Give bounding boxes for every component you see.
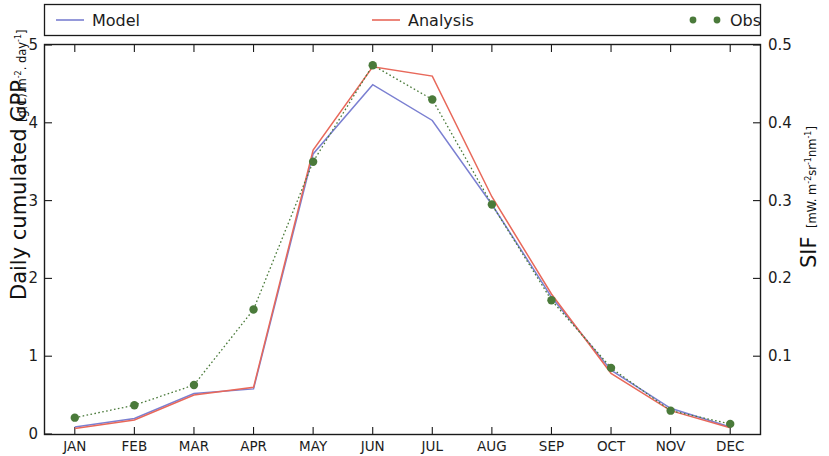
x-tick-label-feb: FEB — [122, 438, 148, 454]
obs-marker-mar — [190, 381, 198, 389]
left-tick-label: 1 — [28, 347, 38, 365]
right-tick-label: 0.1 — [768, 347, 792, 365]
x-tick-label-aug: AUG — [477, 438, 507, 454]
legend-label-obs: Obs — [730, 11, 761, 30]
right-axis-title-text: SIF — [797, 236, 821, 268]
obs-marker-jan — [71, 413, 79, 421]
x-tick-label-jun: JUN — [360, 438, 385, 454]
obs-marker-feb — [130, 401, 138, 409]
obs-marker-apr — [249, 305, 257, 313]
top-axis-ticks — [75, 45, 730, 52]
right-tick-label: 0.4 — [768, 114, 792, 132]
x-axis-ticks: JANFEBMARAPRMAYJUNJULAUGSEPOCTNOVDEC — [62, 427, 744, 454]
right-axis-ticks: 0.10.20.30.40.5 — [753, 36, 792, 365]
chart-legend: Model Analysis Obs — [45, 5, 762, 36]
obs-marker-nov — [666, 406, 674, 414]
right-tick-label: 0.5 — [768, 36, 792, 54]
series-line-model — [75, 85, 730, 427]
right-tick-label: 0.2 — [768, 269, 792, 287]
x-tick-label-jan: JAN — [62, 438, 86, 454]
left-axis-ticks: 012345 — [28, 36, 52, 443]
left-tick-label: 0 — [28, 425, 38, 443]
x-tick-label-nov: NOV — [656, 438, 686, 454]
series-line-analysis — [75, 67, 730, 429]
chart-figure: 012345 0.10.20.30.40.5 JANFEBMARAPRMAYJU… — [0, 0, 829, 456]
x-tick-label-mar: MAR — [179, 438, 209, 454]
obs-marker-jul — [428, 95, 436, 103]
legend-frame — [45, 5, 761, 36]
series-line-obs — [75, 65, 730, 424]
x-tick-label-may: MAY — [299, 438, 328, 454]
left-axis-units: [g(C).m-2. day-1] — [14, 29, 29, 122]
x-tick-label-jul: JUL — [421, 438, 444, 454]
left-tick-label: 5 — [28, 36, 38, 54]
legend-swatch-obs-dot-1 — [690, 17, 697, 24]
x-tick-label-sep: SEP — [539, 438, 564, 454]
x-tick-label-apr: APR — [240, 438, 267, 454]
x-tick-label-dec: DEC — [716, 438, 744, 454]
legend-swatch-obs-dot-2 — [714, 17, 721, 24]
right-tick-label: 0.3 — [768, 192, 792, 210]
obs-marker-aug — [488, 200, 496, 208]
series-layer — [71, 61, 735, 429]
obs-marker-may — [309, 158, 317, 166]
gpp-sif-seasonal-chart: 012345 0.10.20.30.40.5 JANFEBMARAPRMAYJU… — [0, 0, 829, 456]
right-axis-title: SIF [mW. m-2sr-1nm-1] — [797, 126, 821, 268]
obs-marker-dec — [726, 420, 734, 428]
legend-label-model: Model — [92, 11, 140, 30]
right-axis-units: [mW. m-2sr-1nm-1] — [804, 126, 819, 228]
legend-label-analysis: Analysis — [408, 11, 474, 30]
left-axis-title: Daily cumulated GPP [g(C).m-2. day-1] — [7, 29, 31, 300]
obs-marker-oct — [607, 364, 615, 372]
obs-marker-sep — [547, 296, 555, 304]
obs-marker-jun — [369, 61, 377, 69]
x-tick-label-oct: OCT — [597, 438, 626, 454]
